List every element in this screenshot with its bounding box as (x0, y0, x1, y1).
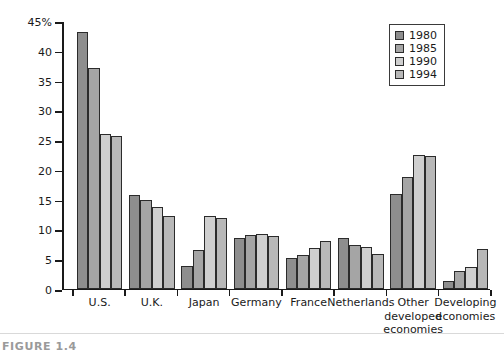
figure-caption: FIGURE 1.4 (2, 340, 77, 353)
y-tick-mark (55, 52, 62, 54)
legend-label: 1990 (409, 56, 437, 67)
bar (234, 238, 245, 289)
y-tick-label: 40 (38, 46, 52, 57)
bar-group (286, 22, 332, 289)
y-tick-label: 15 (38, 195, 52, 206)
legend-swatch-icon (395, 57, 404, 66)
bar (152, 207, 163, 289)
y-tick-mark (55, 171, 62, 173)
y-tick-label: 0 (45, 285, 52, 296)
bar-group (129, 22, 175, 289)
y-tick-label: 30 (38, 106, 52, 117)
bar (465, 267, 476, 288)
y-tick-mark (55, 201, 62, 203)
bar (286, 258, 297, 289)
caption-divider (0, 333, 504, 334)
bar (349, 245, 360, 288)
y-tick-label: 10 (38, 225, 52, 236)
bar (245, 235, 256, 289)
bar (181, 266, 192, 289)
bar (413, 155, 424, 288)
bar (193, 250, 204, 289)
y-tick-label: 20 (38, 165, 52, 176)
legend-swatch-icon (395, 70, 404, 79)
legend-swatch-icon (395, 44, 404, 53)
x-category-label: Developing economies (426, 296, 504, 323)
bar (338, 238, 349, 289)
legend-item: 1994 (395, 68, 437, 81)
chart-legend: 1980198519901994 (389, 24, 445, 86)
y-tick-label: 25 (38, 136, 52, 147)
bar (77, 32, 88, 288)
bar (372, 254, 383, 289)
legend-item: 1980 (395, 29, 437, 42)
bar (216, 218, 227, 288)
bar (309, 248, 320, 288)
bar (163, 216, 174, 288)
legend-item: 1990 (395, 55, 437, 68)
bar (477, 249, 488, 288)
bar-group (181, 22, 227, 289)
bar (390, 194, 401, 289)
bar-group (77, 22, 123, 289)
bar (454, 271, 465, 288)
figure-container: 051015202530354045% U.S.U.K.JapanGermany… (0, 0, 504, 360)
bar (268, 236, 279, 288)
y-tick-mark (55, 141, 62, 143)
bar-group (338, 22, 384, 289)
bar (100, 134, 111, 289)
bar (402, 177, 413, 289)
bar (320, 241, 331, 288)
bar (88, 68, 99, 288)
bar (443, 281, 454, 288)
bar-group (443, 22, 489, 289)
x-axis-line (62, 289, 490, 291)
legend-swatch-icon (395, 31, 404, 40)
legend-item: 1985 (395, 42, 437, 55)
y-tick-mark (55, 290, 62, 292)
y-tick-mark (55, 82, 62, 84)
bar (129, 195, 140, 289)
bar (425, 156, 436, 288)
bar-group (234, 22, 280, 289)
y-tick-mark (55, 230, 62, 232)
bar (204, 216, 215, 288)
legend-label: 1985 (409, 43, 437, 54)
y-tick-label: 5 (45, 255, 52, 266)
y-tick-mark (55, 260, 62, 262)
y-tick-label: 45% (28, 17, 52, 28)
y-tick-mark (55, 111, 62, 113)
y-tick-mark (55, 22, 62, 24)
bar (140, 200, 151, 289)
bar (111, 136, 122, 288)
bar (297, 255, 308, 289)
legend-label: 1980 (409, 30, 437, 41)
y-tick-label: 35 (38, 76, 52, 87)
legend-label: 1994 (409, 69, 437, 80)
bar (361, 247, 372, 288)
bar (256, 234, 267, 289)
